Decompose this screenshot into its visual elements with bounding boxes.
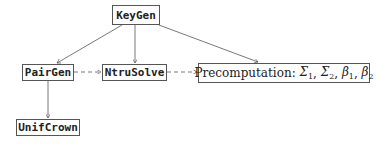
node-precomputation: Precomputation: Σ1, Σ2, β1, β2 (198, 63, 370, 83)
diagram-canvas: KeyGen PairGen NtruSolve Precomputation:… (0, 0, 388, 146)
node-ntrusolve: NtruSolve (102, 64, 167, 81)
node-pairgen: PairGen (22, 64, 74, 81)
node-pairgen-label: PairGen (25, 66, 71, 79)
comma: , (313, 66, 321, 80)
node-unifcrown: UnifCrown (16, 119, 80, 136)
precomp-term-beta1: β1 (342, 65, 354, 81)
node-keygen-label: KeyGen (116, 9, 156, 22)
precomp-term-sigma1: Σ1 (299, 65, 313, 81)
node-keygen: KeyGen (112, 5, 160, 25)
comma: , (354, 66, 362, 80)
comma: , (334, 66, 342, 80)
edge-keygen-pairgen (57, 25, 122, 63)
precomp-term-beta2: β2 (362, 65, 374, 81)
node-precomputation-prefix: Precomputation: (194, 66, 299, 80)
node-unifcrown-label: UnifCrown (18, 121, 78, 134)
precomp-term-sigma2: Σ2 (321, 65, 335, 81)
edge-keygen-precomputation (159, 25, 258, 62)
node-ntrusolve-label: NtruSolve (105, 66, 165, 79)
